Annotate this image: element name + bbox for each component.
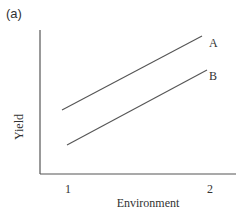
series-label-b: B xyxy=(209,69,217,83)
x-axis-label: Environment xyxy=(117,196,180,210)
y-axis-label: Yield xyxy=(12,114,26,140)
x-tick-1: 1 xyxy=(65,182,71,196)
line-a xyxy=(62,36,202,110)
line-b xyxy=(67,70,207,145)
chart: (a) A B 1 2 Environment Yield xyxy=(0,0,248,214)
x-tick-2: 2 xyxy=(207,182,213,196)
panel-label: (a) xyxy=(6,6,22,21)
series-label-a: A xyxy=(209,36,218,50)
